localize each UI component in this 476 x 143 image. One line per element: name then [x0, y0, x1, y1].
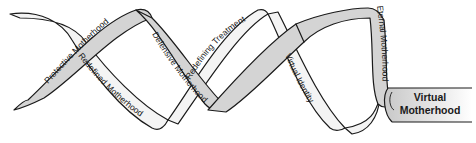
end-label-line1: Virtual — [414, 91, 447, 103]
label-defensive-motherhood: Defensive Motherhood — [150, 30, 210, 105]
label-redefined-motherhood: Redefined Motherhood — [76, 51, 145, 118]
helix-diagram: Protective Motherhood Redefined Motherho… — [0, 0, 476, 143]
end-label-line2: Motherhood — [400, 104, 461, 116]
